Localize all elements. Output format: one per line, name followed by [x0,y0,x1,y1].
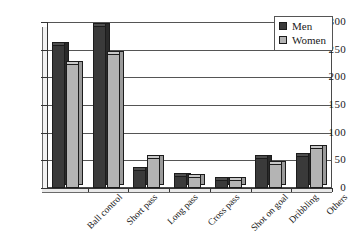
x-label-short-pass: Short pass [124,192,159,227]
chart-legend: Men Women [274,16,333,51]
x-label-shot-on-goal: Shot on goal [249,192,290,233]
legend-label-men: Men [292,21,312,32]
legend-label-women: Women [292,35,326,46]
x-label-ball-control: Ball control [85,192,124,231]
x-label-long-pass: Long pass [165,192,200,227]
legend-swatch-women [279,36,287,44]
x-label-dribbling: Dribbling [287,192,320,225]
legend-swatch-men [279,22,287,30]
legend-item-men: Men [279,19,326,33]
x-label-cross-pass: Cross pass [206,192,242,228]
legend-item-women: Women [279,33,326,47]
x-label-others: Others [324,192,349,217]
